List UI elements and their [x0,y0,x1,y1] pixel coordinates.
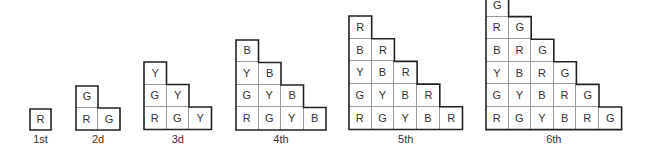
cell: G [144,85,167,108]
cell: B [236,40,259,63]
cell: R [486,107,509,130]
cell: Y [486,62,509,85]
stage-label: 6th [546,133,561,145]
cell: R [236,107,259,130]
cell: R [372,39,395,62]
cell: Y [372,84,395,107]
cell: B [554,107,577,130]
cell: R [417,84,440,107]
stage-3d: YGYRGY [144,62,212,130]
cell: Y [144,62,167,85]
cell: Y [349,61,372,84]
cell: G [76,86,98,108]
cell: R [486,17,509,40]
cell: R [349,16,372,39]
cell: R [349,107,372,130]
cell: B [259,62,282,85]
stage-label: 2d [92,133,104,145]
stage-label: 1st [33,133,48,145]
stage-4th: BYBGYBRGYB [236,40,326,130]
stage-6th: GRGBRGYBRGGYBRGRGYBRG [486,0,622,130]
cell: R [144,107,167,130]
cell: Y [394,107,417,130]
cell: G [98,108,120,130]
cell: R [394,61,417,84]
cell: R [30,109,51,130]
cell: Y [281,107,304,130]
cell: B [486,39,509,62]
cell: G [599,107,622,130]
cell: G [236,85,259,108]
stage-5th: RBRYBRGYBRRGYBR [349,16,463,130]
cell: G [509,107,532,130]
stage-2d: GRG [76,86,120,130]
stage-label: 3d [172,133,184,145]
cell: B [349,39,372,62]
cell: B [281,85,304,108]
stage-label: 5th [398,133,413,145]
cell: G [531,39,554,62]
cell: B [394,84,417,107]
cell: Y [531,107,554,130]
cell: G [509,17,532,40]
cell: B [372,61,395,84]
cell: R [554,84,577,107]
stage-1st: R [30,109,51,130]
cell: G [554,62,577,85]
cell: G [349,84,372,107]
cell: R [531,62,554,85]
cell: R [576,107,599,130]
cell: Y [509,84,532,107]
cell: R [509,39,532,62]
cell: R [440,107,463,130]
cell: Y [259,85,282,108]
cell: G [372,107,395,130]
cell: Y [236,62,259,85]
cell: G [576,84,599,107]
cell: Y [167,85,190,108]
cell: Y [189,107,212,130]
cell: R [76,108,98,130]
cell: G [259,107,282,130]
cell: B [531,84,554,107]
cell: G [167,107,190,130]
cell: G [486,84,509,107]
cell: B [509,62,532,85]
cell: B [417,107,440,130]
cell: G [486,0,509,17]
cell: B [304,107,327,130]
stage-label: 4th [273,133,288,145]
